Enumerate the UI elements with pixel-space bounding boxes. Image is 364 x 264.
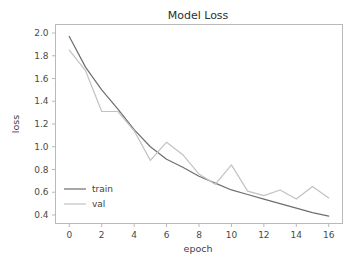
y-tick-label: 0.4: [34, 210, 49, 220]
x-tick-label: 2: [99, 230, 105, 240]
y-tick-label: 1.8: [34, 51, 49, 61]
y-tick-label: 0.6: [34, 187, 49, 197]
y-axis-title: loss: [10, 115, 21, 133]
x-tick-label: 8: [196, 230, 202, 240]
x-axis-title: epoch: [184, 243, 213, 254]
chart-title: Model Loss: [168, 9, 229, 22]
y-tick-label: 1.0: [34, 142, 49, 152]
y-axis-tick-labels: 0.40.60.81.01.21.41.61.82.0: [34, 28, 49, 220]
y-tick-label: 1.2: [34, 119, 48, 129]
legend-label-val: val: [92, 199, 105, 209]
x-tick-label: 6: [164, 230, 170, 240]
figure-canvas: Model Loss 0246810121416 0.40.60.81.01.2…: [0, 0, 364, 264]
legend-label-train: train: [92, 184, 113, 194]
model-loss-line-chart: Model Loss 0246810121416 0.40.60.81.01.2…: [0, 0, 364, 264]
x-tick-label: 12: [258, 230, 269, 240]
x-tick-label: 10: [226, 230, 238, 240]
x-tick-label: 0: [66, 230, 72, 240]
y-tick-label: 1.4: [34, 96, 49, 106]
x-tick-label: 14: [291, 230, 303, 240]
x-tick-label: 4: [131, 230, 137, 240]
y-tick-label: 1.6: [34, 74, 49, 84]
y-tick-label: 2.0: [34, 28, 49, 38]
x-tick-label: 16: [323, 230, 335, 240]
y-tick-label: 0.8: [34, 165, 49, 175]
figure-background: [0, 0, 364, 264]
